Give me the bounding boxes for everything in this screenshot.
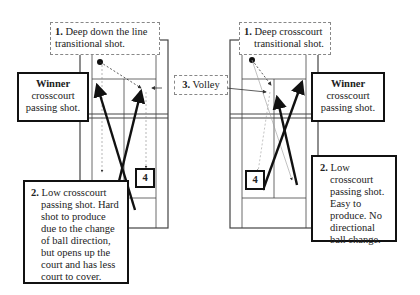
right-label-1-text: Deep crosscourt transitional shot. [254, 26, 324, 49]
left-label-1-num: 1. [55, 26, 63, 37]
right-label-2: 2. Low crosscourt passing shot. Easy to … [311, 155, 397, 242]
right-label-2-text: Low crosscourt passing shot. Easy to pro… [330, 162, 384, 245]
right-label-1-num: 1. [244, 26, 252, 37]
left-label-2-text: Low crosscourt passing shot. Hard shot t… [41, 187, 119, 282]
volley-label: 3. Volley [174, 75, 228, 95]
right-label-2-num: 2. [320, 162, 328, 173]
left-label-1-text: Deep down the line transitional shot. [55, 26, 147, 49]
right-court [230, 40, 318, 228]
right-winner-title: Winner [315, 78, 381, 90]
left-label-2: 2. Low crosscourt passing shot. Hard sho… [23, 180, 129, 284]
left-label-2-num: 2. [31, 187, 39, 198]
left-winner-text: crosscourt passing shot. [21, 90, 85, 114]
right-winner-text: crosscourt passing shot. [315, 90, 381, 114]
left-label-1: 1. Deep down the line transitional shot. [50, 22, 160, 55]
volley-num: 3. [182, 79, 190, 90]
left-winner-title: Winner [21, 78, 85, 90]
right-label-1: 1. Deep crosscourt transitional shot. [239, 22, 331, 55]
right-label-4: 4 [245, 170, 265, 190]
left-label-4: 4 [135, 168, 155, 188]
left-winner-box: Winner crosscourt passing shot. [17, 72, 89, 122]
volley-text: Volley [193, 79, 220, 90]
right-winner-box: Winner crosscourt passing shot. [311, 72, 385, 122]
